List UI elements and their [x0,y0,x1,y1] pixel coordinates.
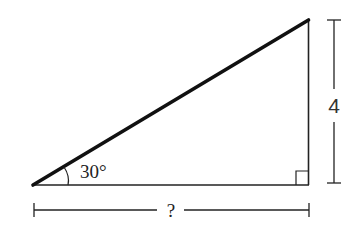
angle-label: 30° [80,161,107,182]
horizontal-side-label: ? [167,200,175,221]
vertical-side-label: 4 [328,94,340,117]
triangle-diagram: 30° 4 ? [0,0,360,227]
angle-arc [64,167,69,185]
right-angle-marker [296,171,309,185]
triangle-hypotenuse [33,20,309,185]
